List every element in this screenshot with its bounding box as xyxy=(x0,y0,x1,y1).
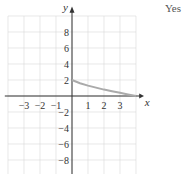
y-tick-label: 6 xyxy=(64,43,69,54)
y-tick-label: −4 xyxy=(58,123,69,134)
x-axis-label: x xyxy=(144,96,150,108)
y-arrow-icon xyxy=(70,6,75,12)
y-tick-label: 4 xyxy=(64,59,69,70)
x-arrow-icon xyxy=(139,94,144,99)
y-tick-label: −8 xyxy=(58,155,69,166)
coordinate-plane: xy−3−2−11238642−2−4−6−8 xyxy=(0,0,183,174)
y-tick-label: 2 xyxy=(64,75,69,86)
x-tick-label: 2 xyxy=(102,100,107,111)
x-tick-label: 1 xyxy=(86,100,91,111)
y-tick-label: 8 xyxy=(64,27,69,38)
x-tick-label: 3 xyxy=(118,100,123,111)
x-tick-label: −3 xyxy=(19,100,30,111)
y-axis-label: y xyxy=(62,1,68,13)
y-tick-label: −6 xyxy=(58,139,69,150)
x-tick-label: −2 xyxy=(35,100,46,111)
y-tick-label: −2 xyxy=(58,107,69,118)
